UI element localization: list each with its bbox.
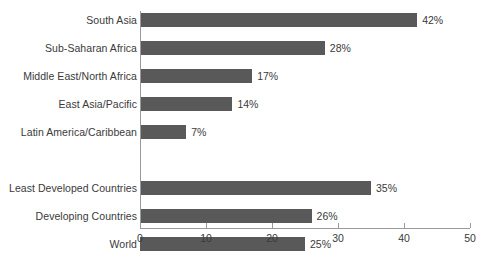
- bar-value-label: 17%: [257, 70, 278, 82]
- x-axis-tick: [140, 223, 141, 228]
- category-label: Latin America/Caribbean: [0, 126, 137, 138]
- category-label: Least Developed Countries: [0, 182, 137, 194]
- x-axis-tick-label: 10: [200, 232, 212, 244]
- bar: [140, 13, 417, 27]
- bar-value-label: 35%: [376, 182, 397, 194]
- x-axis-tick: [338, 223, 339, 228]
- x-axis-tick-label: 30: [332, 232, 344, 244]
- bar: [140, 69, 252, 83]
- category-label: Sub-Saharan Africa: [0, 42, 137, 54]
- bar-value-label: 28%: [330, 42, 351, 54]
- bar-value-label: 7%: [191, 126, 206, 138]
- bar-value-label: 25%: [310, 238, 331, 250]
- x-axis-tick-label: 20: [266, 232, 278, 244]
- bar: [140, 237, 305, 251]
- x-axis-tick: [404, 223, 405, 228]
- x-axis-tick-label: 0: [137, 232, 143, 244]
- category-label: World: [0, 238, 137, 250]
- bar-value-label: 26%: [317, 210, 338, 222]
- y-axis-line: [140, 11, 141, 229]
- bar-value-label: 42%: [422, 14, 443, 26]
- category-label: Middle East/North Africa: [0, 70, 137, 82]
- category-label: Developing Countries: [0, 210, 137, 222]
- x-axis-tick: [206, 223, 207, 228]
- bar-value-label: 14%: [237, 98, 258, 110]
- category-label: South Asia: [0, 14, 137, 26]
- x-axis-tick: [272, 223, 273, 228]
- bar: [140, 181, 371, 195]
- bar: [140, 41, 325, 55]
- x-axis-tick-label: 50: [464, 232, 476, 244]
- bar-chart: South AsiaSub-Saharan AfricaMiddle East/…: [0, 0, 488, 261]
- bar: [140, 209, 312, 223]
- x-axis-tick-label: 40: [398, 232, 410, 244]
- x-axis-tick: [470, 223, 471, 228]
- bar: [140, 125, 186, 139]
- plot-area: 42%28%17%14%7%35%26%25%: [140, 0, 488, 261]
- x-axis-line: [140, 228, 470, 229]
- category-label: East Asia/Pacific: [0, 98, 137, 110]
- bar: [140, 97, 232, 111]
